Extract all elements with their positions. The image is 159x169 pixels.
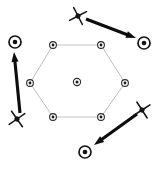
vertex-top-left <box>50 42 57 49</box>
free-node-upper-left-core <box>13 40 18 45</box>
free-node-bottom-core <box>83 150 88 155</box>
vertex-bottom-left-core <box>52 116 55 119</box>
vertex-right-core <box>124 82 127 85</box>
free-node-bottom <box>79 146 91 158</box>
vertex-top-right <box>98 42 105 49</box>
vertex-top-right-core <box>100 44 103 47</box>
vertex-bottom-right-core <box>100 116 103 119</box>
vertex-bottom-right <box>98 114 105 121</box>
free-node-upper-left <box>9 36 21 48</box>
vertex-left-core <box>29 82 32 85</box>
hexagon-lattice-diagram <box>0 0 159 169</box>
figure-canvas <box>0 0 159 169</box>
center-node-core <box>76 81 79 84</box>
center-node <box>73 78 80 85</box>
vertex-left <box>27 80 34 87</box>
vertex-right <box>122 80 129 87</box>
vertex-bottom-left <box>50 114 57 121</box>
vertex-top-left-core <box>52 44 55 47</box>
free-node-right-core <box>142 41 147 46</box>
free-node-right <box>138 37 150 49</box>
